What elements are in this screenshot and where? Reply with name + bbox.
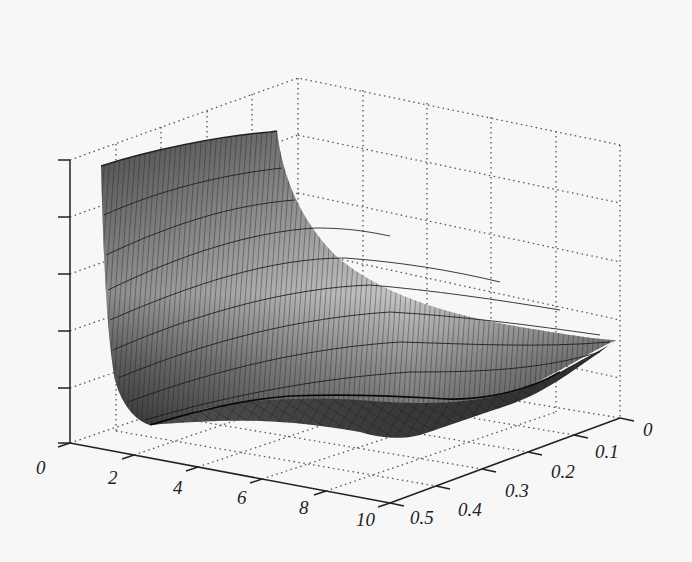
surface-plot: 0 2 4 6 8 10 0 0.1 0.2 0.3 0.4 0.5 <box>0 0 692 562</box>
y-tick-labels: 0 0.1 0.2 0.3 0.4 0.5 <box>410 419 653 528</box>
y-tick-label: 0.5 <box>410 507 434 528</box>
surface <box>101 131 616 438</box>
z-axis-ticks <box>58 160 70 443</box>
x-tick-label: 0 <box>36 457 46 478</box>
x-tick-label: 8 <box>299 497 309 518</box>
x-tick-label: 4 <box>173 477 183 498</box>
y-tick-label: 0.1 <box>595 441 619 462</box>
y-tick-label: 0.3 <box>505 480 529 501</box>
x-tick-label: 2 <box>108 467 118 488</box>
y-tick-label: 0.4 <box>458 499 482 520</box>
x-tick-label: 10 <box>356 509 376 530</box>
x-tick-label: 6 <box>237 487 247 508</box>
x-axis <box>70 443 390 503</box>
y-tick-label: 0.2 <box>551 461 575 482</box>
y-tick-label: 0 <box>643 419 653 440</box>
